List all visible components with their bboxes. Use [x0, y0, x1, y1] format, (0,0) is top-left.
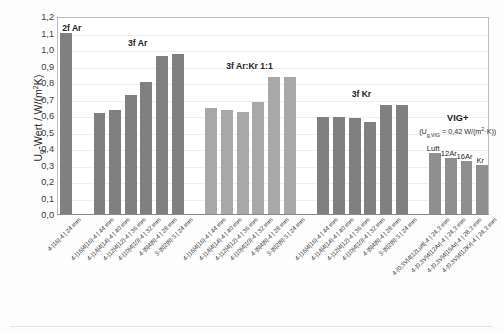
bars-layer [58, 18, 488, 214]
y-axis-tick: 1,0 [26, 45, 54, 55]
plot-area [57, 17, 489, 215]
y-axis-tick: 0,9 [26, 62, 54, 72]
bar[interactable] [380, 105, 392, 214]
group-annotation-vig: (Ug,VIG = 0,42 W/(m2·K)) [419, 126, 496, 138]
bar[interactable] [333, 117, 345, 214]
y-axis-tick: 0,2 [26, 177, 54, 187]
y-axis-tick: 0,3 [26, 161, 54, 171]
x-axis-category-labels: 4-|16|-4 | 24 mm4-|16|4|16|-4 | 44 mm4-|… [57, 216, 489, 333]
bar[interactable] [94, 113, 106, 214]
bar[interactable] [349, 118, 361, 214]
bar[interactable] [237, 112, 249, 214]
y-axis-tick-labels: 1,21,11,00,90,80,70,60,50,40,30,20,10,0 [26, 17, 54, 215]
y-axis-tick: 1,2 [26, 12, 54, 22]
bar-value-tag: 12Ar [441, 149, 457, 158]
group-label-vig: VIG+ [447, 113, 468, 123]
bar-value-tag: Luft [427, 144, 440, 153]
group-label: 3f Kr [352, 89, 372, 99]
bar-chart: Ug-Wert / W/(m2K) 1,21,11,00,90,80,70,60… [0, 0, 503, 333]
y-axis-tick: 1,1 [26, 29, 54, 39]
bar[interactable] [221, 110, 233, 214]
bar[interactable] [125, 95, 137, 214]
bar[interactable] [109, 110, 121, 214]
bar[interactable] [60, 33, 72, 215]
bar[interactable] [205, 108, 217, 214]
y-axis-tick: 0,1 [26, 194, 54, 204]
bar[interactable] [172, 54, 184, 214]
bar[interactable] [156, 56, 168, 214]
bar[interactable] [284, 77, 296, 214]
y-axis-tick: 0,7 [26, 95, 54, 105]
bar[interactable] [364, 122, 376, 214]
bar[interactable] [140, 82, 152, 214]
bar[interactable] [268, 77, 280, 214]
bar[interactable] [445, 158, 457, 214]
y-axis-tick: 0,0 [26, 210, 54, 220]
bar[interactable] [317, 117, 329, 214]
bar[interactable] [429, 153, 441, 214]
bar[interactable] [396, 105, 408, 214]
bar[interactable] [461, 161, 473, 214]
bar-value-tag: Kr [476, 156, 484, 165]
y-axis-tick: 0,5 [26, 128, 54, 138]
bar[interactable] [252, 102, 264, 214]
bar-value-tag: 16Ar [456, 152, 472, 161]
group-label: 3f Ar:Kr 1:1 [226, 61, 272, 71]
bar[interactable] [476, 165, 488, 215]
y-axis-tick: 0,8 [26, 78, 54, 88]
y-axis-tick: 0,6 [26, 111, 54, 121]
group-label: 3f Ar [128, 38, 147, 48]
y-axis-tick: 0,4 [26, 144, 54, 154]
x-axis-label: 4-|16|-4 | 24 mm [46, 216, 82, 252]
bottom-divider [10, 326, 493, 327]
group-label: 2f Ar [62, 23, 81, 33]
